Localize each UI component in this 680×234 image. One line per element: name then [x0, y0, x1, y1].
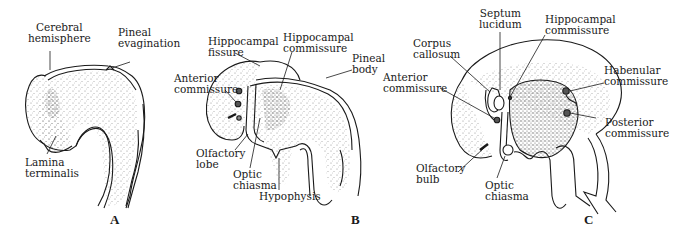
label-olfactory-lobe: Olfactory lobe — [196, 148, 246, 170]
embryonic-brain-diagram: Cerebral hemisphere Pineal evagination L… — [0, 0, 680, 234]
label-anterior-commissure-c: Anterior commissure — [383, 72, 447, 94]
panel-a-drawing — [26, 65, 145, 208]
label-pineal-body: Pineal body — [352, 53, 385, 75]
panel-letter-a: A — [110, 212, 119, 228]
label-pineal-evagination: Pineal evagination — [118, 27, 180, 49]
label-hypophysis: Hypophysis — [259, 191, 321, 202]
label-cerebral-hemisphere: Cerebral hemisphere — [28, 22, 91, 44]
panel-letter-c: C — [584, 212, 593, 228]
panel-letter-b: B — [351, 212, 360, 228]
panel-c-drawing — [451, 40, 621, 214]
label-optic-chiasma-b: Optic chiasma — [233, 169, 277, 191]
label-posterior-commissure: Posterior commissure — [605, 117, 669, 139]
label-hippocampal-commissure-b: Hippocampal commissure — [283, 32, 354, 54]
label-lamina-terminalis: Lamina terminalis — [25, 157, 79, 179]
label-optic-chiasma-c: Optic chiasma — [485, 180, 529, 202]
label-corpus-callosum: Corpus callosum — [413, 38, 460, 60]
label-hippocampal-commissure-c: Hippocampal commissure — [545, 14, 616, 36]
label-olfactory-bulb: Olfactory bulb — [416, 163, 466, 185]
label-anterior-commissure-b: Anterior commissure — [174, 73, 238, 95]
label-septum-lucidum: Septum lucidum — [479, 8, 522, 30]
label-hippocampal-fissure: Hippocampal fissure — [208, 36, 279, 58]
label-habenular-commissure: Habenular commissure — [604, 65, 668, 87]
